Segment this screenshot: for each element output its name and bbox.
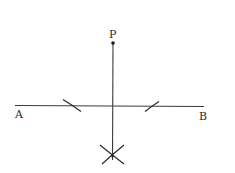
point-b-label: B [199,110,207,123]
intersection-point [112,156,114,158]
point-p-label: P [109,28,117,41]
perpendicular-line [113,43,114,160]
point-p-dot [111,41,115,45]
line-ab [15,106,204,107]
perpendicular-construction-diagram: P A B [0,0,235,173]
point-a-label: A [14,108,24,121]
